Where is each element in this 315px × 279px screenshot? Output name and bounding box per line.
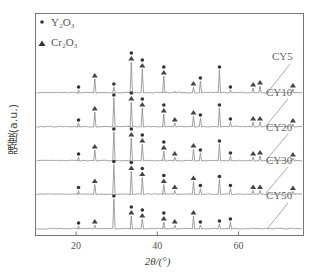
cr2o3-triangle-icon [128,210,134,215]
cr2o3-triangle-icon [250,116,256,121]
x-tick-label: 60 [234,240,244,251]
cr2o3-triangle-icon [92,219,98,224]
cr2o3-triangle-icon [190,143,196,148]
y2o3-dot-icon [218,65,222,69]
cr2o3-triangle-icon [161,179,167,184]
cr2o3-triangle-icon [190,210,196,215]
cr2o3-triangle-icon [250,82,256,87]
y2o3-dot-icon [112,82,116,86]
x-axis-ticks: 204060 [71,232,243,252]
xrd-pattern-line [37,199,302,229]
cr2o3-triangle-icon [257,150,263,155]
cr2o3-triangle-icon [139,138,145,143]
cr2o3-triangle-icon [257,116,263,121]
y2o3-dot-icon [229,117,233,121]
y2o3-dot-icon [162,211,166,215]
y2o3-dot-icon [199,113,203,117]
cr2o3-triangle-icon [128,132,134,137]
xrd-pattern-line [37,62,303,93]
cr2o3-triangle-icon [139,63,145,68]
y2o3-dot-icon [77,118,81,122]
cr2o3-triangle-icon [172,117,178,122]
y-axis-label: 强度(a.u.) [6,104,24,155]
y2o3-dot-icon [140,58,144,62]
cr2o3-triangle-icon [128,56,134,61]
cr2o3-triangle-icon [190,176,196,181]
cr2o3-triangle-icon [92,144,98,149]
y2o3-dot-icon [77,85,81,89]
cr2o3-triangle-icon [92,73,98,78]
y2o3-dot-icon [199,220,203,224]
y2o3-dot-icon [112,160,116,164]
cr2o3-triangle-icon [250,151,256,156]
y2o3-dot-icon [229,217,233,221]
x-tick-label: 40 [152,240,162,251]
y2o3-dot-icon [199,148,203,152]
xrd-pattern-line [37,98,303,127]
cr2o3-triangle-icon [190,81,196,86]
y2o3-dot-icon [218,103,222,107]
cr2o3-triangle-icon [161,70,167,75]
y2o3-dot-icon [140,208,144,212]
cr2o3-triangle-icon [92,106,98,111]
y2o3-dot-icon [130,161,134,165]
y2o3-dot-icon [140,167,144,171]
cr2o3-triangle-icon [128,166,134,171]
cr2o3-triangle-icon [92,179,98,184]
y2o3-dot-icon [229,184,233,188]
legend-y2o3-label: Y₂O₃ [51,16,75,28]
cr2o3-triangle-icon [161,216,167,221]
x-axis-label: 2θ/(°) [0,255,315,267]
y2o3-dot-icon [229,151,233,155]
legend-cr2o3-label: Cr₂O₃ [51,36,78,48]
cr2o3-triangle-icon [161,108,167,113]
y2o3-dot-icon [112,194,116,198]
xrd-pattern-line [37,132,303,161]
y2o3-dot-icon [162,65,166,69]
y2o3-dot-icon [77,221,81,225]
series-label-cy10: CY10 [266,86,293,98]
y2o3-dot-icon [77,186,81,190]
cr2o3-triangle-icon [139,102,145,107]
y2o3-legend-dot-icon [40,20,44,24]
y2o3-dot-icon [162,174,166,178]
leader-line [268,203,288,228]
series-label-cy30: CY30 [266,154,293,166]
cr2o3-triangle-icon [139,172,145,177]
xrd-chart: 204060 CY5CY10CY20CY30CY50 Y₂O₃ Cr₂O₃ [0,0,315,279]
y2o3-dot-icon [112,127,116,131]
cr2o3-legend-triangle-icon [39,41,46,47]
xrd-pattern-line [37,165,303,195]
cr2o3-triangle-icon [172,185,178,190]
cr2o3-triangle-icon [139,213,145,218]
cr2o3-triangle-icon [257,80,263,85]
x-tick-label: 20 [71,240,81,251]
cr2o3-triangle-icon [172,219,178,224]
cr2o3-triangle-icon [128,96,134,101]
y2o3-dot-icon [229,85,233,89]
y2o3-dot-icon [130,205,134,209]
y2o3-dot-icon [130,91,134,95]
y2o3-dot-icon [77,152,81,156]
y2o3-dot-icon [218,139,222,143]
series-label-cy5: CY5 [272,50,293,62]
cr2o3-triangle-icon [172,151,178,156]
legend: Y₂O₃ Cr₂O₃ [39,16,78,48]
y2o3-dot-icon [199,184,203,188]
y2o3-dot-icon [218,175,222,179]
y2o3-dot-icon [140,133,144,137]
y2o3-dot-icon [112,93,116,97]
y2o3-dot-icon [218,219,222,223]
trace-cy5: CY5 [37,50,303,93]
cr2o3-triangle-icon [257,185,263,190]
series-label-cy20: CY20 [266,121,293,133]
y2o3-dot-icon [130,127,134,131]
xrd-traces: CY5CY10CY20CY30CY50 [37,50,303,229]
y2o3-dot-icon [130,51,134,55]
y2o3-dot-icon [162,140,166,144]
y2o3-dot-icon [162,103,166,107]
cr2o3-triangle-icon [161,145,167,150]
trace-cy50: CY50 [37,189,302,229]
series-label-cy50: CY50 [266,189,293,201]
y2o3-dot-icon [140,97,144,101]
